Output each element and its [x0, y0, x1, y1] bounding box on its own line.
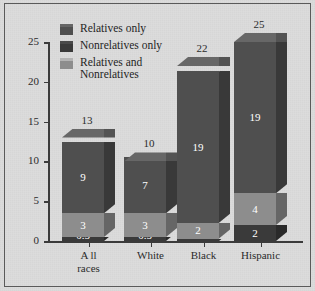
y-axis-tick-label: 0: [17, 235, 39, 246]
bar-top-face: [234, 33, 276, 42]
y-axis-tick: [44, 42, 48, 44]
x-axis-tick-label: Hispanic: [221, 249, 301, 261]
x-axis-tick: [151, 243, 153, 247]
legend-swatch-icon: [60, 41, 73, 52]
x-axis-tick-label-line2: races: [49, 262, 129, 274]
legend-label: Relatives only: [80, 22, 146, 34]
legend-swatch-icon: [60, 58, 73, 69]
bar-segment: 3: [124, 213, 166, 237]
y-axis-tick: [44, 241, 48, 243]
bar-top-face: [177, 57, 219, 66]
x-axis-tick: [89, 243, 91, 247]
bar-segment: 7: [124, 157, 166, 213]
y-axis-tick: [44, 161, 48, 163]
bar-segment-value-label: 7: [124, 180, 166, 191]
y-axis-tick: [44, 201, 48, 203]
bar-segment: 19: [177, 71, 219, 222]
bar-top-face: [124, 152, 166, 161]
chart-figure: 05101520250.53913A llraces0.53710White0.…: [0, 0, 315, 291]
y-axis-line: [48, 42, 50, 243]
bar-segment-value-label: 19: [177, 142, 219, 153]
legend-swatch-icon: [60, 24, 73, 35]
x-axis-tick: [261, 243, 263, 247]
y-axis-tick: [44, 122, 48, 124]
legend-label: Nonrelatives only: [80, 39, 162, 51]
bar-segment-value-label: 9: [62, 172, 104, 183]
bar-segment: 19: [234, 42, 276, 193]
legend-label: Relatives and Nonrelatives: [80, 56, 142, 80]
bar-total-label: 10: [128, 138, 170, 149]
bar-segment: 0.3: [177, 239, 219, 241]
bar-segment-value-label: 2: [177, 225, 219, 236]
y-axis-tick-label: 10: [17, 155, 39, 166]
bar-segment: 0.5: [124, 237, 166, 241]
bar-segment-value-label: 2: [234, 228, 276, 239]
bar-total-label: 25: [238, 19, 280, 30]
y-axis-tick-label: 25: [17, 36, 39, 47]
bar-segment: 2: [177, 223, 219, 239]
y-axis-tick-label: 15: [17, 116, 39, 127]
bar-segment: 0.5: [62, 237, 104, 241]
bar-segment: 3: [62, 213, 104, 237]
bar-segment-value-label: 19: [234, 112, 276, 123]
bar-column: 0.321922: [177, 0, 219, 291]
bar-segment: 2: [234, 225, 276, 241]
x-axis-tick: [204, 243, 206, 247]
bar-total-label: 22: [181, 43, 223, 54]
bar-top-face: [62, 129, 104, 138]
y-axis-tick: [44, 82, 48, 84]
bar-segment-value-label: 4: [234, 204, 276, 215]
bar-segment: 9: [62, 142, 104, 214]
bar-segment-value-label: 3: [62, 220, 104, 231]
y-axis-tick-label: 5: [17, 195, 39, 206]
bar-segment-value-label: 3: [124, 220, 166, 231]
y-axis-tick-label: 20: [17, 76, 39, 87]
bar-total-label: 13: [66, 115, 108, 126]
bar-segment: 4: [234, 193, 276, 225]
bar-column: 241925: [234, 0, 276, 291]
